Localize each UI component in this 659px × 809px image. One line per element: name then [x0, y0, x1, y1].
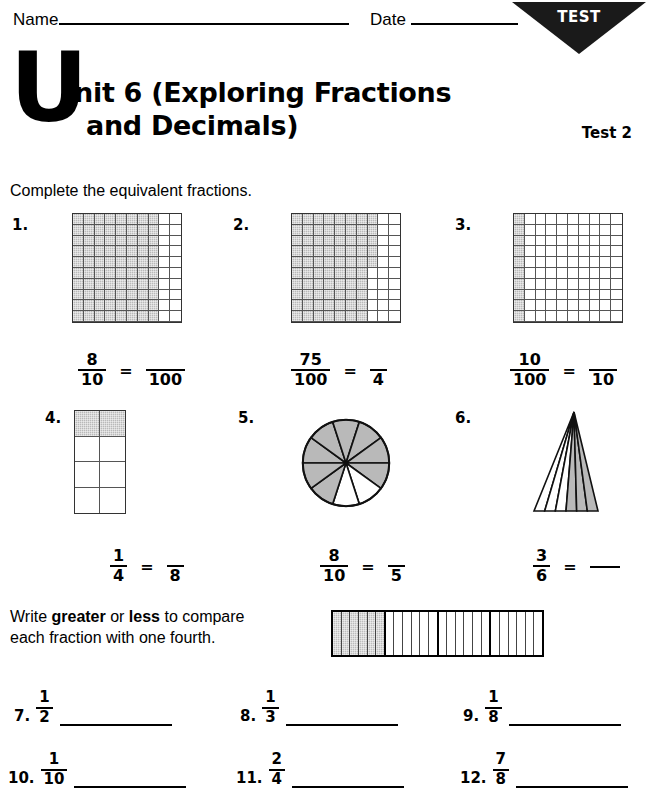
fraction-answer-2[interactable]: 4: [370, 352, 387, 389]
equation-problem-4: 1 4 = 8: [110, 548, 184, 585]
answer-input-line[interactable]: [292, 773, 404, 788]
grid-cell: [557, 290, 568, 301]
name-field[interactable]: Name: [13, 10, 349, 30]
fraction-left-1: 8 10: [78, 352, 106, 389]
compare-instruction: Write greater or less to compare each fr…: [10, 606, 244, 648]
grid-cell-shaded: [346, 225, 357, 236]
bar-strip: [359, 612, 368, 655]
grid-cell: [579, 257, 590, 268]
numerator-blank[interactable]: [158, 352, 172, 369]
grid-cell: [557, 257, 568, 268]
grid-cell: [389, 225, 400, 236]
grid-cell: [100, 488, 125, 514]
grid-cell: [368, 279, 379, 290]
grid-cell-shaded: [346, 300, 357, 311]
grid-cell-shaded: [105, 300, 116, 311]
grid-cell: [600, 311, 611, 322]
grid-cell: [579, 246, 590, 257]
grid-cell-shaded: [95, 246, 106, 257]
grid-cell: [568, 225, 579, 236]
grid-cell-shaded: [95, 311, 106, 322]
date-field[interactable]: Date: [370, 10, 518, 30]
grid-cell: [546, 279, 557, 290]
grid-cell: [525, 246, 536, 257]
compare-item-10[interactable]: 10. 1 10: [8, 752, 186, 788]
grid-cell: [75, 488, 100, 514]
grid-cell-shaded: [514, 246, 525, 257]
numerator-blank[interactable]: [389, 548, 403, 565]
grid-cell: [590, 311, 601, 322]
grid-cell: [159, 214, 170, 225]
grid-cell-shaded: [324, 300, 335, 311]
grid-cell-shaded: [149, 214, 160, 225]
compare-item-7[interactable]: 7. 1 2: [14, 690, 172, 726]
fraction-answer-1[interactable]: 100: [146, 352, 185, 389]
bar-strip: [429, 612, 437, 655]
name-input-line[interactable]: [59, 11, 349, 25]
grid-cell-shaded: [346, 279, 357, 290]
grid-cell: [389, 300, 400, 311]
answer-input-line[interactable]: [74, 773, 186, 788]
grid-cell: [525, 268, 536, 279]
bar-quarter: [386, 612, 439, 655]
grid-cell-shaded: [292, 279, 303, 290]
grid-cell-shaded: [357, 290, 368, 301]
grid-cell-shaded: [127, 279, 138, 290]
bar-strip: [403, 612, 412, 655]
fraction: 1 3: [262, 690, 278, 726]
grid-cell-shaded: [105, 236, 116, 247]
grid-cell-shaded: [149, 279, 160, 290]
worksheet-header: Name Date TEST U nit 6 (Exploring Fracti…: [0, 0, 659, 158]
bar-strip: [464, 612, 473, 655]
numerator: 8: [326, 548, 343, 565]
grid-cell: [170, 268, 181, 279]
equals-sign-4: =: [140, 557, 153, 576]
numerator-blank[interactable]: [371, 352, 385, 369]
grid-cell-shaded: [357, 225, 368, 236]
grid-cell-shaded: [149, 246, 160, 257]
answer-input-line[interactable]: [286, 711, 398, 726]
grid-cell: [579, 225, 590, 236]
grid-cell-shaded: [149, 290, 160, 301]
grid-cell: [600, 214, 611, 225]
grid-cell-shaded: [314, 246, 325, 257]
grid-cell: [389, 214, 400, 225]
grid-cell: [579, 300, 590, 311]
grid-cell-shaded: [303, 225, 314, 236]
answer-input-line[interactable]: [60, 711, 172, 726]
grid-cell: [159, 257, 170, 268]
grid-cell: [579, 214, 590, 225]
fraction-answer-5[interactable]: 5: [388, 548, 405, 585]
compare-item-12[interactable]: 12. 7 8: [460, 752, 628, 788]
answer-input-line[interactable]: [509, 711, 621, 726]
bar-strip: [333, 612, 342, 655]
grid-cell-shaded: [138, 246, 149, 257]
numerator-blank[interactable]: [596, 352, 610, 369]
test-number-label: Test 2: [582, 124, 632, 142]
fraction-answer-4[interactable]: 8: [167, 548, 184, 585]
grid-cell: [579, 290, 590, 301]
grid-cell-shaded: [314, 311, 325, 322]
answer-input-line[interactable]: [516, 773, 628, 788]
fraction-answer-3[interactable]: 10: [589, 352, 617, 389]
bar-strip: [517, 612, 526, 655]
problem-number-1: 1.: [12, 216, 28, 234]
grid-cell-shaded: [514, 214, 525, 225]
grid-cell-shaded: [73, 300, 84, 311]
numerator-blank[interactable]: [168, 548, 182, 565]
compare-item-9[interactable]: 9. 1 8: [463, 690, 621, 726]
grid-cell: [100, 437, 125, 463]
grid-cell-shaded: [127, 246, 138, 257]
grid-cell: [536, 279, 547, 290]
compare-item-8[interactable]: 8. 1 3: [240, 690, 398, 726]
grid-cell: [159, 279, 170, 290]
compare-item-11[interactable]: 11. 2 4: [236, 752, 404, 788]
grid-cell: [600, 225, 611, 236]
grid-cell-shaded: [95, 214, 106, 225]
grid-cell-shaded: [127, 300, 138, 311]
grid-cell: [170, 290, 181, 301]
grid-cell-shaded: [73, 225, 84, 236]
grid-cell-shaded: [303, 257, 314, 268]
date-input-line[interactable]: [411, 11, 518, 25]
answer-blank-6[interactable]: [590, 566, 620, 568]
